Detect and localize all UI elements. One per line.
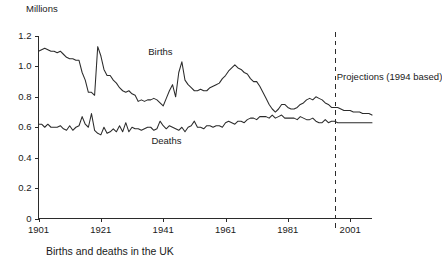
- x-axis-ticks: [40, 219, 351, 223]
- x-tick-label: 1901: [16, 225, 62, 235]
- y-axis-ticks: [35, 37, 39, 220]
- x-tick-label: 1941: [140, 225, 186, 235]
- y-axis-unit-label: Millions: [26, 4, 58, 14]
- y-tick-label: 1.2: [4, 31, 32, 41]
- series-group: [39, 47, 373, 135]
- x-tick-label: 1961: [203, 225, 249, 235]
- series-line-deaths: [39, 114, 373, 135]
- y-tick-label: 0: [4, 214, 32, 224]
- y-tick-label: 0.8: [4, 92, 32, 102]
- series-label-deaths: Deaths: [151, 136, 181, 146]
- y-tick-label: 0.6: [4, 122, 32, 132]
- x-tick-label: 1921: [78, 225, 124, 235]
- y-tick-label: 0.4: [4, 153, 32, 163]
- y-tick-label: 0.2: [4, 183, 32, 193]
- series-label-births: Births: [148, 47, 172, 57]
- chart-caption: Births and deaths in the UK: [46, 246, 174, 257]
- y-tick-label: 1.0: [4, 61, 32, 71]
- projection-annotation-label: Projections (1994 based): [337, 72, 442, 82]
- x-tick-label: 1981: [265, 225, 311, 235]
- x-tick-label: 2001: [327, 225, 373, 235]
- series-line-births: [39, 47, 373, 115]
